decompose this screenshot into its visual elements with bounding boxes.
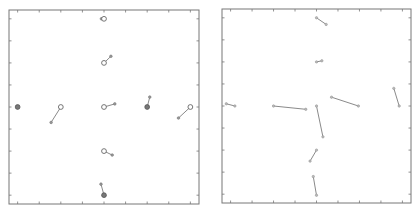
segment-end-point xyxy=(305,108,307,110)
segment-end-point xyxy=(322,136,324,138)
segment-end-point xyxy=(309,160,311,162)
segment-line xyxy=(317,18,327,25)
displaced-point xyxy=(148,96,151,99)
segment-line xyxy=(310,150,316,161)
displaced-point xyxy=(50,121,53,124)
grid-node xyxy=(15,105,20,110)
grid-node xyxy=(102,16,107,21)
segment-end-point xyxy=(315,194,317,196)
grid-node xyxy=(58,105,63,110)
displaced-point xyxy=(177,117,180,120)
grid-node xyxy=(102,193,107,198)
segment-start-point xyxy=(315,17,317,19)
segment-line xyxy=(274,106,306,109)
grid-node xyxy=(102,105,107,110)
grid-node xyxy=(145,105,150,110)
displaced-point xyxy=(113,103,116,106)
segment-end-point xyxy=(321,60,323,62)
segment-end-point xyxy=(398,105,400,107)
grid-node xyxy=(188,105,193,110)
segment-start-point xyxy=(315,61,317,63)
segment-line xyxy=(332,97,359,106)
left-plot-panel xyxy=(9,10,199,204)
segment-start-point xyxy=(315,149,317,151)
segment-start-point xyxy=(330,96,332,98)
grid-node xyxy=(102,149,107,154)
segment-start-point xyxy=(312,175,314,177)
segment-start-point xyxy=(272,105,274,107)
segment-line xyxy=(317,106,323,137)
right-plot-panel xyxy=(222,9,411,203)
segment-line xyxy=(313,177,316,196)
segment-start-point xyxy=(393,87,395,89)
segment-end-point xyxy=(325,23,327,25)
segment-line xyxy=(394,88,399,106)
segment-end-point xyxy=(234,105,236,107)
segment-end-point xyxy=(357,105,359,107)
displaced-point xyxy=(111,154,114,157)
figure xyxy=(0,0,420,210)
grid-node xyxy=(102,61,107,66)
segment-start-point xyxy=(315,105,317,107)
segment-start-point xyxy=(225,103,227,105)
displaced-point xyxy=(100,183,103,186)
displaced-point xyxy=(110,55,113,58)
